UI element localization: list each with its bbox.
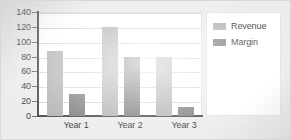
bar-revenue-year-3 [156,57,172,116]
y-tick-mark-0 [32,116,37,117]
legend-label-revenue: Revenue [231,22,266,31]
y-tick-label-60: 60 [5,67,31,76]
y-tick-label-80: 80 [5,53,31,62]
y-tick-mark-140 [32,12,37,13]
x-tick-label-year-1: Year 1 [54,120,98,130]
bar-revenue-year-1 [47,51,63,116]
y-tick-label-0: 0 [5,112,31,121]
bar-margin-year-1 [69,94,85,116]
x-tick-label-year-3: Year 3 [162,120,206,130]
y-tick-label-100: 100 [5,38,31,47]
y-axis-tick-labels: 140 120 100 80 60 40 20 0 [1,1,31,140]
y-tick-mark-40 [32,86,37,87]
legend-swatch-revenue-icon [213,23,226,30]
bar-revenue-year-2 [102,27,118,116]
y-tick-label-20: 20 [5,97,31,106]
y-tick-mark-80 [32,57,37,58]
y-tick-mark-100 [32,42,37,43]
y-tick-mark-20 [32,101,37,102]
bar-margin-year-2 [124,57,140,116]
bar-margin-year-3 [178,107,194,116]
y-tick-label-140: 140 [5,8,31,17]
y-tick-label-40: 40 [5,82,31,91]
bars-layer [39,12,202,116]
legend-swatch-margin-icon [213,39,226,46]
legend-label-margin: Margin [231,38,258,47]
y-tick-mark-60 [32,71,37,72]
chart-legend: Revenue Margin [206,12,281,116]
bar-chart-figure: 140 120 100 80 60 40 20 0 Year 1 Year 2 … [0,0,291,140]
x-tick-label-year-2: Year 2 [108,120,152,130]
y-tick-mark-120 [32,27,37,28]
y-tick-label-120: 120 [5,23,31,32]
legend-item-revenue: Revenue [213,22,266,31]
legend-item-margin: Margin [213,38,258,47]
